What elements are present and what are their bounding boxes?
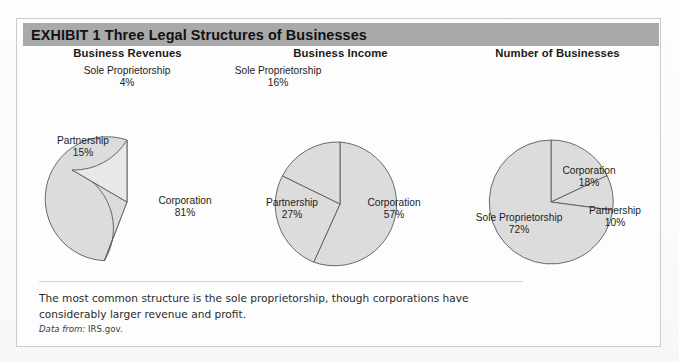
pie-label-value: 57% — [352, 209, 436, 221]
pie-label-name: Partnership — [250, 197, 334, 209]
pie-label-name: Sole Proprietorship — [467, 212, 571, 224]
pie-label-corporation: Corporation 18% — [547, 165, 631, 189]
pie-chart-number-of-businesses: Number of Businesses Corporation 18% Par… — [451, 47, 664, 272]
pie-label-name: Corporation — [352, 197, 436, 209]
pie-label-value: 18% — [547, 177, 631, 189]
pie-label-name: Sole Proprietorship — [54, 65, 200, 77]
pie-label-partnership: Partnership 10% — [573, 205, 657, 229]
pie-label-value: 27% — [250, 209, 334, 221]
source-label: Data from: — [39, 324, 85, 334]
pie-label-name: Partnership — [573, 205, 657, 217]
exhibit-title: EXHIBIT 1 Three Legal Structures of Busi… — [31, 26, 367, 44]
pie-label-value: 10% — [573, 217, 657, 229]
pie-chart-business-income: Business Income Corporation 57% Partners… — [234, 47, 447, 272]
exhibit-caption: The most common structure is the sole pr… — [39, 291, 539, 322]
pie-label-value: 81% — [143, 207, 227, 219]
pie-graphic — [451, 47, 664, 272]
source-value: IRS.gov. — [88, 324, 123, 334]
pie-label-value: 15% — [41, 147, 125, 159]
pie-label-value: 16% — [230, 77, 326, 89]
exhibit-source: Data from: IRS.gov. — [39, 324, 123, 334]
pie-chart-business-revenues: Business Revenues Corporation 81% Partne… — [21, 47, 234, 272]
charts-row: Business Revenues Corporation 81% Partne… — [17, 47, 660, 272]
exhibit-title-bar: EXHIBIT 1 Three Legal Structures of Busi… — [23, 23, 659, 46]
pie-label-partnership: Partnership 27% — [250, 197, 334, 221]
pie-label-corporation: Corporation 81% — [143, 195, 227, 219]
pie-label-value: 72% — [467, 224, 571, 236]
pie-label-sole-proprietorship: Sole Proprietorship 16% — [230, 65, 326, 89]
pie-label-sole-proprietorship: Sole Proprietorship 4% — [54, 65, 200, 89]
pie-label-corporation: Corporation 57% — [352, 197, 436, 221]
pie-label-value: 4% — [54, 77, 200, 89]
pie-label-name: Corporation — [143, 195, 227, 207]
pie-label-name: Sole Proprietorship — [230, 65, 326, 77]
pie-label-name: Partnership — [41, 135, 125, 147]
pie-label-partnership: Partnership 15% — [41, 135, 125, 159]
exhibit-panel: EXHIBIT 1 Three Legal Structures of Busi… — [16, 18, 661, 347]
pie-label-sole-proprietorship: Sole Proprietorship 72% — [467, 212, 571, 236]
pie-label-name: Corporation — [547, 165, 631, 177]
caption-divider — [39, 281, 523, 282]
pie-slices — [489, 140, 613, 264]
